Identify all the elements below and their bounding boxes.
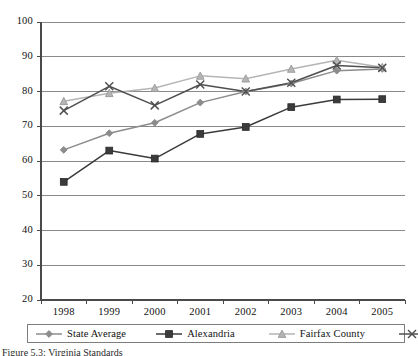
y-axis-tick-label: 90 [5,50,33,61]
x-axis-tick-label: 2003 [269,306,313,317]
legend-item-fairfax-county: Fairfax County [261,325,365,342]
y-axis-tick-label: 20 [5,293,33,304]
y-axis-tick-label: 40 [5,224,33,235]
line-chart-plot [0,0,418,356]
x-axis-tick-label: 2000 [133,306,177,317]
x-axis-tick-label: 2001 [178,306,222,317]
y-axis-tick-label: 30 [5,258,33,269]
x-axis-tick-label: 1998 [42,306,86,317]
chart-container: 2030405060708090100 19981999200020012002… [0,0,418,356]
legend-marker-square-icon [154,327,184,341]
y-axis-tick-label: 60 [5,154,33,165]
legend-label: State Average [67,328,126,339]
figure-caption-text: Figure 5.3: Virginia Standards [2,347,123,356]
y-axis-tick-label: 70 [5,119,33,130]
x-axis-tick-label: 2005 [360,306,404,317]
y-axis-tick-label: 100 [5,15,33,26]
y-axis-tick-label: 50 [5,189,33,200]
legend-label: Alexandria [187,328,235,339]
x-axis-tick-label: 1999 [87,306,131,317]
x-axis-tick-label: 2002 [224,306,268,317]
legend-item-arlington-county: Arlington County [391,325,418,342]
legend-marker-triangle-icon [267,327,297,341]
figure-caption: Figure 5.3: Virginia Standards [0,347,418,356]
legend-marker-x-icon [397,327,418,341]
legend-marker-diamond-icon [34,327,64,341]
legend-item-state-average: State Average [28,325,126,342]
x-axis-tick-label: 2004 [315,306,359,317]
legend-item-alexandria: Alexandria [148,325,235,342]
chart-legend: State Average Alexandria Fairfax County … [27,324,405,343]
legend-label: Fairfax County [300,328,365,339]
y-axis-tick-label: 80 [5,85,33,96]
